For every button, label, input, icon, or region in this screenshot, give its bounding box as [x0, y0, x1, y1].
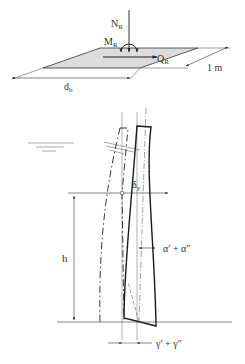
- water-level-left: [28, 143, 74, 151]
- slab-plate: [43, 48, 198, 68]
- original-wall-outline: [100, 128, 128, 322]
- wall-deformation-diagram: NR MR QR db 1 m δy: [0, 0, 245, 364]
- moment-label: MR: [104, 36, 118, 49]
- slab-force-diagram: NR MR QR db 1 m: [12, 10, 230, 94]
- rotation-label: α′ + α″: [163, 243, 190, 254]
- height-label: h: [62, 252, 68, 264]
- normal-force-label: NR: [111, 18, 123, 31]
- displacement-label: δy: [132, 179, 141, 192]
- wall-deflection-diagram: δy h α′ + α″ γ′ + γ″: [28, 108, 232, 349]
- width-label: db: [64, 81, 73, 94]
- base-rotation-label: γ′ + γ″: [155, 338, 182, 349]
- unit-depth-label: 1 m: [207, 62, 223, 73]
